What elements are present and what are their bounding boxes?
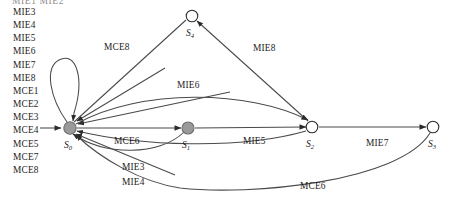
node-S1[interactable] — [182, 122, 194, 134]
node-label-S4: S4 — [186, 27, 195, 39]
node-label-S3: S3 — [428, 138, 437, 150]
edge-label-MIE3: MIE3 — [122, 162, 145, 172]
node-S4[interactable] — [186, 10, 198, 22]
edge-S1-S2-MIE5 — [195, 127, 306, 128]
node-S0[interactable] — [64, 122, 76, 134]
node-label-S1: S1 — [182, 139, 190, 151]
edge-S2-S4-MIE8 — [197, 21, 308, 121]
edge-diag-into-S0-b — [78, 92, 230, 124]
edge-label-MIE4: MIE4 — [122, 177, 145, 187]
node-label-S0: S0 — [64, 139, 73, 151]
state-transition-diagram: S0 S1 S2 S3 S4 MCE8 MIE8 MIE6 MCE6 MIE5 … — [0, 0, 453, 203]
node-S3[interactable] — [427, 121, 439, 133]
edge-label-MIE7: MIE7 — [366, 138, 389, 148]
edge-S0-S4-MCE8 — [74, 20, 186, 122]
edge-label-MIE6: MIE6 — [177, 80, 200, 90]
edge-selfloop-S0 — [50, 58, 78, 122]
edge-label-MIE8: MIE8 — [253, 43, 276, 53]
edge-label-MCE6-top: MCE6 — [114, 136, 140, 146]
edge-label-MCE8: MCE8 — [104, 42, 130, 52]
edge-label-MIE5: MIE5 — [243, 136, 266, 146]
node-S2[interactable] — [306, 121, 318, 133]
diagram-page: MIE1 MIE2 MIE3 MIE4 MIE5 MIE6 MIE7 MIE8 … — [0, 0, 453, 203]
edge-S0-S2-MIE6 — [76, 97, 308, 124]
edge-diag-into-S0-c — [77, 68, 165, 121]
edge-label-MCE6-bottom: MCE6 — [300, 181, 326, 191]
node-label-S2: S2 — [306, 138, 315, 150]
